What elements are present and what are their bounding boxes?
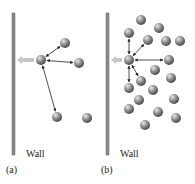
collision-arrow bbox=[133, 44, 144, 55]
molecule bbox=[150, 65, 160, 75]
molecule bbox=[82, 113, 92, 123]
wall bbox=[12, 13, 15, 155]
molecule bbox=[164, 55, 174, 65]
wall-label-a: Wall bbox=[26, 148, 45, 159]
molecule bbox=[136, 15, 146, 25]
panel-a bbox=[12, 13, 92, 155]
molecule bbox=[140, 120, 150, 130]
molecule bbox=[134, 95, 144, 105]
molecule bbox=[124, 28, 134, 38]
wall-label-b: Wall bbox=[120, 148, 139, 159]
molecule bbox=[136, 76, 146, 86]
caption-a: (a) bbox=[6, 164, 17, 175]
molecule bbox=[60, 38, 70, 48]
collision-arrow bbox=[47, 60, 73, 62]
panel-b bbox=[106, 13, 185, 155]
molecule bbox=[153, 107, 163, 117]
molecule bbox=[154, 23, 164, 33]
molecule bbox=[161, 36, 171, 46]
molecule bbox=[124, 104, 134, 114]
force-arrow-icon bbox=[111, 56, 122, 64]
molecule bbox=[52, 112, 62, 122]
molecule bbox=[148, 85, 158, 95]
molecule bbox=[171, 113, 181, 123]
molecule bbox=[143, 35, 153, 45]
collision-arrow bbox=[46, 46, 60, 56]
molecule bbox=[169, 94, 179, 104]
force-arrow-icon bbox=[17, 56, 34, 64]
wall bbox=[106, 13, 109, 155]
molecule bbox=[166, 73, 176, 83]
molecule bbox=[124, 83, 134, 93]
center-molecule bbox=[124, 55, 134, 65]
center-molecule bbox=[36, 55, 46, 65]
molecule bbox=[74, 58, 84, 68]
molecule bbox=[175, 36, 185, 46]
collision-arrow bbox=[132, 65, 138, 76]
collision-arrow bbox=[43, 66, 56, 111]
caption-b: (b) bbox=[101, 164, 113, 175]
